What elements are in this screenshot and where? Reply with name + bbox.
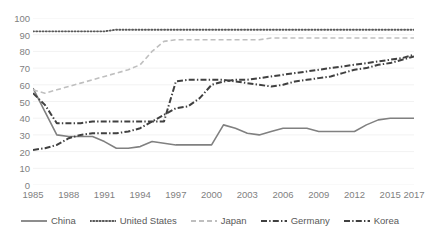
y-axis-tick-100: 100 <box>14 14 30 23</box>
series-line-united-states <box>33 30 414 32</box>
legend-swatch-dotted-icon <box>90 217 116 225</box>
legend-label: Germany <box>291 216 330 226</box>
x-axis-tick-2009: 2009 <box>308 189 329 200</box>
legend-swatch-dashdot-icon <box>344 217 370 225</box>
y-axis-tick-20: 20 <box>19 147 30 156</box>
x-axis-tick-1997: 1997 <box>165 189 186 200</box>
series-line-germany <box>33 56 414 123</box>
y-axis-tick-70: 70 <box>19 64 30 73</box>
legend-item-united-states[interactable]: United States <box>90 216 177 226</box>
y-axis-tick-80: 80 <box>19 47 30 56</box>
legend-item-japan[interactable]: Japan <box>191 216 247 226</box>
y-axis-tick-90: 90 <box>19 30 30 39</box>
series-line-japan <box>33 38 414 93</box>
x-axis-tick-1991: 1991 <box>94 189 115 200</box>
legend-item-korea[interactable]: Korea <box>344 216 399 226</box>
x-axis-tick-2003: 2003 <box>237 189 258 200</box>
y-axis-tick-60: 60 <box>19 80 30 89</box>
x-axis-tick-2000: 2000 <box>201 189 222 200</box>
legend-item-china[interactable]: China <box>21 216 76 226</box>
legend-label: China <box>51 216 76 226</box>
legend-swatch-dashed-icon <box>191 217 217 225</box>
y-axis-tick-50: 50 <box>19 97 30 106</box>
y-axis-tick-40: 40 <box>19 114 30 123</box>
x-axis-tick-1994: 1994 <box>130 189 151 200</box>
legend-label: Japan <box>221 216 247 226</box>
x-axis-tick-2017: 2017 <box>403 189 424 200</box>
x-axis-tick-1985: 1985 <box>22 189 43 200</box>
chart-legend: ChinaUnited StatesJapanGermanyKorea <box>0 210 420 232</box>
y-axis-tick-10: 10 <box>19 164 30 173</box>
x-axis-labels: 1985198819911994199720002003200620092012… <box>33 189 414 203</box>
y-axis-labels: 0102030405060708090100 <box>0 18 30 185</box>
x-axis-tick-1988: 1988 <box>58 189 79 200</box>
series-line-china <box>33 88 414 148</box>
legend-label: United States <box>120 216 177 226</box>
legend-swatch-dashdot-icon <box>261 217 287 225</box>
legend-item-germany[interactable]: Germany <box>261 216 330 226</box>
y-axis-tick-30: 30 <box>19 130 30 139</box>
legend-label: Korea <box>374 216 399 226</box>
series-lines <box>33 18 414 185</box>
x-axis-tick-2012: 2012 <box>344 189 365 200</box>
x-axis-tick-2006: 2006 <box>272 189 293 200</box>
plot-area <box>33 18 414 185</box>
legend-swatch-solid-icon <box>21 217 47 225</box>
x-axis-tick-2015: 2015 <box>380 189 401 200</box>
